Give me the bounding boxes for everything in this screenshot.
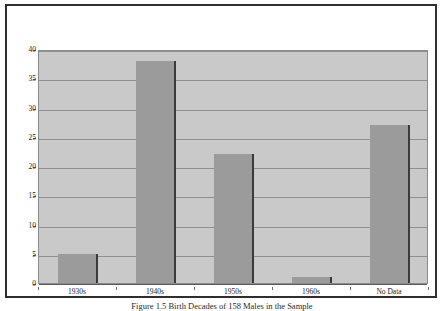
gridline-y-35 xyxy=(39,80,427,81)
bar xyxy=(370,125,410,283)
y-tick-mark xyxy=(33,50,36,51)
gridline-y-25 xyxy=(39,139,427,140)
y-tick-mark xyxy=(33,284,36,285)
bar xyxy=(292,277,332,283)
y-tick-mark xyxy=(33,109,36,110)
y-tick-mark xyxy=(33,138,36,139)
y-tick-mark xyxy=(33,196,36,197)
gridline-y-0 xyxy=(39,284,427,285)
y-tick-mark xyxy=(33,167,36,168)
gridline-y-30 xyxy=(39,110,427,111)
x-tick-label: 1960s xyxy=(272,287,350,296)
x-axis: 1930s1940s1950s1960sNo Data xyxy=(38,287,428,299)
y-tick-mark xyxy=(33,79,36,80)
plot-area xyxy=(38,50,428,284)
figure-container: 0510152025303540 1930s1940s1950s1960sNo … xyxy=(0,0,444,311)
x-tick-label: 1950s xyxy=(194,287,272,296)
figure-caption: Figure 1.5 Birth Decades of 158 Males in… xyxy=(0,301,444,311)
figure-frame: 0510152025303540 1930s1940s1950s1960sNo … xyxy=(5,4,437,298)
bar xyxy=(136,61,176,283)
bar xyxy=(58,254,98,283)
x-tick-mark xyxy=(38,287,39,290)
y-tick-mark xyxy=(33,255,36,256)
gridline-y-40 xyxy=(39,51,427,52)
x-tick-label: 1930s xyxy=(38,287,116,296)
x-tick-label: 1940s xyxy=(116,287,194,296)
bar xyxy=(214,154,254,283)
x-tick-mark xyxy=(428,287,429,290)
y-tick-mark xyxy=(33,226,36,227)
y-axis: 0510152025303540 xyxy=(12,46,36,286)
x-tick-label: No Data xyxy=(350,287,428,296)
